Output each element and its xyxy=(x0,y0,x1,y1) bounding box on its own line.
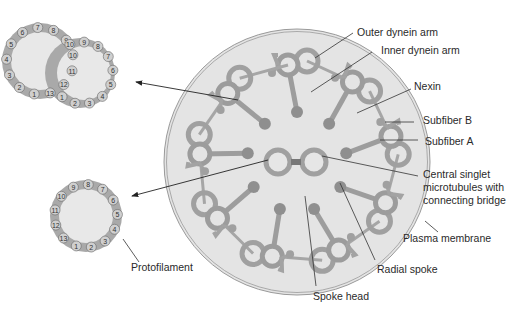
label-plasma-membrane: Plasma membrane xyxy=(403,232,491,245)
protofilament-number: 5 xyxy=(9,41,13,48)
protofilament-number: 11 xyxy=(51,207,58,214)
protofilament-number: 2 xyxy=(18,84,22,91)
protofilament-number: 7 xyxy=(106,53,110,60)
protofilament-number: 3 xyxy=(8,72,12,79)
protofilament-number: 3 xyxy=(103,238,107,245)
protofilament-number: 11 xyxy=(68,68,75,75)
protofilament-number: 6 xyxy=(21,29,25,36)
protofilament-number: 6 xyxy=(111,67,115,74)
protofilament-number: 4 xyxy=(5,56,9,63)
protofilament-number: 1 xyxy=(74,243,78,250)
protofilament-number: 7 xyxy=(36,24,40,31)
protofilament-number: 12 xyxy=(60,81,68,88)
protofilament-number: 7 xyxy=(101,186,105,193)
singlet-inset: 12345678910111213 xyxy=(50,180,122,252)
protofilament-number: 3 xyxy=(88,100,92,107)
connecting-bridge xyxy=(291,159,301,165)
protofilament-number: 8 xyxy=(96,43,100,50)
label-outer-dynein-arm: Outer dynein arm xyxy=(357,26,438,39)
protofilament-number: 4 xyxy=(113,226,117,233)
label-subfiber-b: Subfiber B xyxy=(423,114,472,127)
axoneme-cross-section xyxy=(164,29,430,295)
label-radial-spoke: Radial spoke xyxy=(377,263,438,276)
protofilament-number: 4 xyxy=(100,93,104,100)
protofilament-number: 6 xyxy=(111,197,115,204)
label-protofilament: Protofilament xyxy=(131,261,193,274)
protofilament-number: 13 xyxy=(46,90,54,97)
protofilament-number: 2 xyxy=(73,100,77,107)
protofilament-number: 1 xyxy=(60,94,64,101)
protofilament-number: 8 xyxy=(52,27,56,34)
protofilament-number: 10 xyxy=(58,193,66,200)
label-central-singlet: Central singlet microtubules with connec… xyxy=(423,168,506,207)
protofilament-number: 9 xyxy=(71,184,75,191)
protofilament-number: 10 xyxy=(66,41,74,48)
protofilament-number: 1 xyxy=(32,91,36,98)
doublet-inset: 12345678910111213 12345678910 xyxy=(2,23,118,109)
label-nexin: Nexin xyxy=(414,80,441,93)
protofilament-number: 12 xyxy=(52,222,60,229)
protofilament-number: 8 xyxy=(86,181,90,188)
label-inner-dynein-arm: Inner dynein arm xyxy=(381,44,460,57)
protofilament-number: 9 xyxy=(82,39,86,46)
label-subfiber-a: Subfiber A xyxy=(425,135,473,148)
protofilament-number: 2 xyxy=(89,244,93,251)
protofilament-number: 5 xyxy=(116,211,120,218)
protofilament-number: 13 xyxy=(60,235,68,242)
protofilament-number: 5 xyxy=(109,81,113,88)
protofilament-number: 10 xyxy=(69,52,77,59)
label-spoke-head: Spoke head xyxy=(313,290,369,303)
